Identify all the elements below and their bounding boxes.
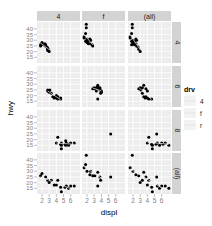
data-point	[59, 186, 62, 189]
x-tick-label: 3	[138, 197, 142, 204]
y-tick-label: 35	[26, 76, 33, 82]
data-point	[56, 179, 59, 182]
facet-strip-row: (all)	[172, 153, 181, 194]
facet-panel	[37, 22, 80, 63]
facet-strip-label: (all)	[144, 13, 156, 21]
y-tick-label: 25	[26, 87, 33, 93]
facet-panel	[82, 22, 125, 63]
data-point	[142, 171, 145, 174]
x-tick-label: 4	[100, 197, 104, 204]
data-point	[155, 132, 158, 135]
legend-label: r	[200, 122, 203, 129]
facet-panel	[37, 110, 80, 151]
data-point	[130, 32, 133, 35]
data-point	[167, 187, 170, 190]
data-point	[146, 183, 149, 186]
y-tick-label: 35	[26, 163, 33, 169]
data-point	[96, 98, 99, 101]
data-point	[60, 190, 63, 193]
facet-panel	[82, 153, 125, 194]
facet-strip-label: (all)	[173, 168, 181, 180]
y-tick-label: 30	[26, 168, 33, 174]
facet-panel	[128, 66, 171, 107]
facet-strip-row: 4	[172, 22, 181, 63]
data-point	[151, 190, 154, 193]
legend-label: 4	[200, 98, 204, 105]
data-point	[83, 36, 86, 39]
y-tick-label: 30	[26, 81, 33, 87]
y-tick-label: 40	[26, 114, 33, 120]
legend-label: f	[200, 110, 202, 117]
facet-panel	[37, 153, 80, 194]
data-point	[41, 172, 44, 175]
data-point	[147, 136, 150, 139]
data-point	[139, 50, 142, 53]
faceted-scatter-plot: 4f(all)468(all)1520253035401520253035401…	[0, 0, 212, 226]
facet-strip-label: 4	[174, 41, 181, 45]
facet-strip-row: 8	[172, 110, 181, 151]
y-tick-label: 40	[26, 157, 33, 163]
facet-strip-label: 4	[57, 13, 61, 20]
x-tick-label: 5	[153, 197, 157, 204]
x-tick-label: 3	[47, 197, 51, 204]
data-point	[100, 91, 103, 94]
data-point	[155, 175, 158, 178]
data-point	[129, 166, 132, 169]
y-tick-label: 25	[26, 43, 33, 49]
data-point	[131, 154, 134, 157]
data-point	[141, 179, 144, 182]
x-tick-label: 3	[92, 197, 96, 204]
data-point	[69, 185, 72, 188]
data-point	[139, 181, 142, 184]
data-point	[131, 23, 134, 26]
y-tick-label: 20	[26, 137, 33, 143]
data-point	[134, 173, 137, 176]
x-tick-label: 2	[85, 197, 89, 204]
x-tick-label: 2	[131, 197, 135, 204]
y-tick-label: 15	[26, 185, 33, 191]
y-tick-label: 40	[26, 26, 33, 32]
data-point	[85, 154, 88, 157]
data-point	[56, 136, 59, 139]
data-point	[86, 170, 89, 173]
facet-strip-label: f	[103, 13, 105, 20]
y-tick-label: 20	[26, 180, 33, 186]
data-point	[109, 175, 112, 178]
data-point	[141, 92, 144, 95]
x-tick-label: 4	[146, 197, 150, 204]
data-point	[131, 26, 134, 29]
data-point	[73, 185, 76, 188]
data-point	[146, 90, 149, 93]
data-point	[150, 186, 153, 189]
y-tick-label: 40	[26, 70, 33, 76]
y-tick-label: 15	[26, 98, 33, 104]
y-tick-label: 20	[26, 93, 33, 99]
data-point	[85, 26, 88, 29]
facet-strip-col: f	[82, 11, 125, 21]
data-point	[96, 185, 99, 188]
data-point	[60, 144, 63, 147]
x-axis-title: displ	[101, 208, 118, 217]
x-tick-label: 6	[114, 197, 118, 204]
legend-title: drv	[184, 86, 195, 93]
x-tick-label: 5	[107, 197, 111, 204]
data-point	[64, 144, 67, 147]
facet-strip-col: 4	[37, 11, 80, 21]
facet-panel	[128, 153, 171, 194]
y-tick-label: 35	[26, 32, 33, 38]
facet-strip-label: 6	[174, 85, 181, 89]
facet-strip-col: (all)	[128, 11, 171, 21]
data-point	[48, 88, 51, 91]
x-tick-label: 2	[40, 197, 44, 204]
data-point	[151, 147, 154, 150]
x-tick-label: 5	[62, 197, 66, 204]
data-point	[162, 143, 165, 146]
data-point	[96, 171, 99, 174]
legend: drv4fr	[184, 86, 204, 130]
y-tick-label: 20	[26, 49, 33, 55]
data-point	[151, 144, 154, 147]
data-point	[88, 173, 91, 176]
data-point	[48, 181, 51, 184]
facet-strip-row: 6	[172, 66, 181, 107]
data-point	[84, 163, 87, 166]
